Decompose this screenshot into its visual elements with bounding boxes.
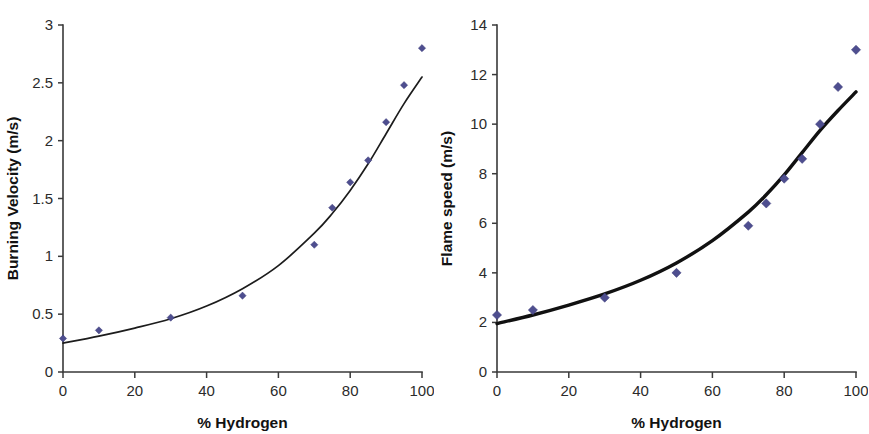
fitted-trend-curve [497,92,856,324]
y-tick-label: 1 [45,247,53,264]
x-tick-label: 80 [776,382,793,399]
y-tick-label: 3 [45,16,53,33]
y-tick-label: 6 [479,214,487,231]
y-tick-label: 12 [470,66,487,83]
x-tick-label: 40 [632,382,649,399]
y-tick-label: 2 [479,313,487,330]
data-point-marker [239,292,246,299]
x-axis-title: % Hydrogen [197,414,287,431]
y-tick-label: 10 [470,115,487,132]
y-axis-title: Flame speed (m/s) [438,131,455,266]
data-point-marker [400,82,407,89]
y-tick-label: 2.5 [32,74,53,91]
y-tick-label: 4 [479,264,487,281]
x-tick-label: 20 [560,382,577,399]
chart-panel-flame-speed: 02468101214020406080100% HydrogenFlame s… [434,0,868,434]
y-tick-label: 0.5 [32,305,53,322]
y-tick-label: 2 [45,132,53,149]
y-axis-title: Burning Velocity (m/s) [4,117,21,281]
x-tick-label: 0 [59,382,67,399]
chart-panel-burning-velocity: 00.511.522.53020406080100% HydrogenBurni… [0,0,434,434]
x-tick-label: 60 [270,382,287,399]
x-tick-label: 100 [409,382,434,399]
x-tick-label: 80 [342,382,359,399]
data-point-marker [347,179,354,186]
data-point-marker [672,268,681,277]
axis-lines [63,25,422,372]
data-point-marker [418,45,425,52]
y-tick-label: 0 [479,363,487,380]
data-point-marker [311,241,318,248]
x-axis-title: % Hydrogen [631,414,721,431]
figure-two-panel-scatter: 00.511.522.53020406080100% HydrogenBurni… [0,0,869,434]
y-tick-label: 0 [45,363,53,380]
data-point-marker [59,335,66,342]
x-tick-label: 20 [126,382,143,399]
data-point-marker [780,174,789,183]
y-tick-label: 8 [479,165,487,182]
y-tick-label: 1.5 [32,190,53,207]
data-point-marker [744,221,753,230]
x-tick-label: 40 [198,382,215,399]
fitted-trend-curve [63,77,422,343]
data-point-marker [383,119,390,126]
x-tick-label: 100 [843,382,868,399]
y-tick-label: 14 [470,16,487,33]
x-tick-label: 60 [704,382,721,399]
flame-speed-plot: 02468101214020406080100% HydrogenFlame s… [434,0,868,434]
data-point-marker [492,310,501,319]
data-point-marker [95,327,102,334]
data-point-marker [833,82,842,91]
axis-lines [497,25,856,372]
x-tick-label: 0 [493,382,501,399]
data-point-marker [851,45,860,54]
burning-velocity-plot: 00.511.522.53020406080100% HydrogenBurni… [0,0,434,434]
data-point-marker [365,157,372,164]
